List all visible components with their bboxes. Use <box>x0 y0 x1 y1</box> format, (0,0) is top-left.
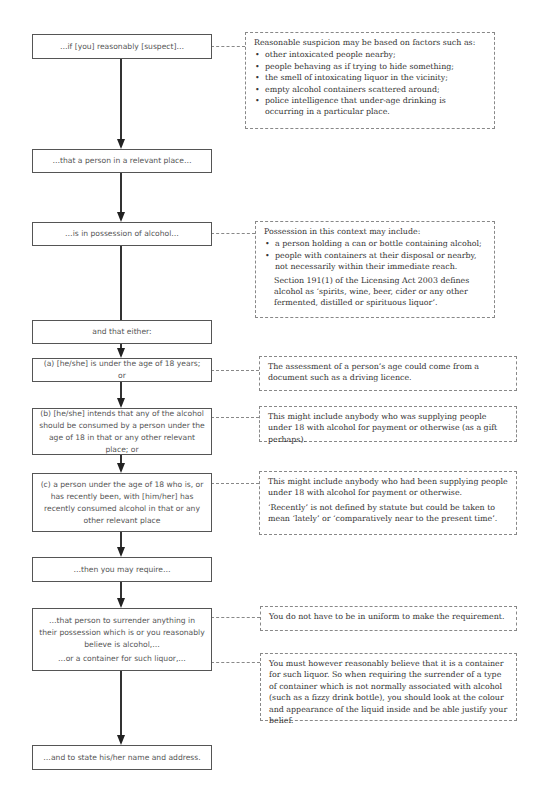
arrow-down-icon <box>117 348 125 358</box>
flow-node-c: (c) a person under the age of 18 who is,… <box>32 473 212 532</box>
flow-node-a: (a) [he/she] is under the age of 18 year… <box>32 358 212 382</box>
note-supply-b: This might include anybody who was suppl… <box>259 406 517 442</box>
node-text: and that either: <box>92 326 151 338</box>
arrow-down-icon <box>117 398 125 408</box>
note-text-secondary: ‘Recently’ is not defined by statute but… <box>268 502 508 525</box>
note-connector <box>211 417 259 418</box>
connector-line <box>120 172 122 212</box>
connector-line <box>120 531 122 547</box>
note-container: You must however reasonably believe that… <box>260 653 517 721</box>
node-text: (a) [he/she] is under the age of 18 year… <box>39 358 205 382</box>
arrow-down-icon <box>117 212 125 222</box>
note-text: You do not have to be in uniform to make… <box>269 611 508 622</box>
arrow-down-icon <box>117 463 125 473</box>
connector-line <box>120 58 122 139</box>
node-text: …that a person in a relevant place… <box>52 155 191 167</box>
node-text: …then you may require… <box>73 564 170 576</box>
note-text: You must however reasonably believe that… <box>269 658 508 726</box>
connector-line <box>120 581 122 598</box>
note-connector <box>211 46 245 47</box>
node-text: …and to state his/her name and address. <box>43 752 200 764</box>
flow-node-require: …then you may require… <box>32 557 212 582</box>
note-connector <box>211 483 259 484</box>
note-connector <box>211 662 260 663</box>
note-text: This might include anybody who had been … <box>268 476 508 499</box>
note-list-item: a person holding a can or bottle contain… <box>274 238 486 249</box>
arrow-down-icon <box>117 139 125 149</box>
node-text: …is in possession of alcohol… <box>65 228 179 240</box>
note-definition: Section 191(1) of the Licensing Act 2003… <box>264 275 486 309</box>
note-list: other intoxicated people nearby; people … <box>254 49 486 117</box>
note-connector <box>211 370 259 371</box>
note-connector <box>211 233 255 234</box>
flow-node-name: …and to state his/her name and address. <box>32 745 212 770</box>
note-intro: Possession in this context may include: <box>264 226 486 237</box>
note-text: This might include anybody who was suppl… <box>268 411 508 445</box>
note-list-item: other intoxicated people nearby; <box>264 49 486 60</box>
node-text: …that person to surrender anything in th… <box>39 615 205 651</box>
note-list-item: empty alcohol containers scattered aroun… <box>264 84 486 95</box>
flow-node-suspect: …if [you] reasonably [suspect]… <box>32 34 212 59</box>
note-text: The assessment of a person’s age could c… <box>268 361 508 384</box>
node-text-secondary: …or a container for such liquor,… <box>58 653 186 665</box>
note-uniform: You do not have to be in uniform to make… <box>260 606 517 631</box>
arrow-down-icon <box>117 598 125 608</box>
note-list-item: the smell of intoxicating liquor in the … <box>264 72 486 83</box>
arrow-down-icon <box>117 735 125 745</box>
note-list-item: people behaving as if trying to hide som… <box>264 61 486 72</box>
connector-line <box>120 381 122 398</box>
connector-line <box>120 245 122 320</box>
note-suspicion: Reasonable suspicion may be based on fac… <box>245 32 495 129</box>
connector-line <box>120 670 122 735</box>
flow-node-person: …that a person in a relevant place… <box>32 149 212 173</box>
note-age: The assessment of a person’s age could c… <box>259 356 517 391</box>
flow-node-b: (b) [he/she] intends that any of the alc… <box>32 408 212 455</box>
arrow-down-icon <box>117 547 125 557</box>
note-list: a person holding a can or bottle contain… <box>264 238 486 272</box>
node-text: (b) [he/she] intends that any of the alc… <box>39 408 205 456</box>
note-list-item: people with containers at their disposal… <box>274 250 486 273</box>
flow-node-possession: …is in possession of alcohol… <box>32 222 212 246</box>
node-text: …if [you] reasonably [suspect]… <box>60 41 184 53</box>
note-connector <box>211 617 260 618</box>
note-supply-c: This might include anybody who had been … <box>259 471 517 535</box>
flow-node-surrender: …that person to surrender anything in th… <box>32 608 212 671</box>
note-possession: Possession in this context may include: … <box>255 221 495 318</box>
note-intro: Reasonable suspicion may be based on fac… <box>254 37 486 48</box>
flow-node-either: and that either: <box>32 320 212 344</box>
note-list-item: police intelligence that under-age drink… <box>264 95 486 118</box>
node-text: (c) a person under the age of 18 who is,… <box>39 479 205 527</box>
